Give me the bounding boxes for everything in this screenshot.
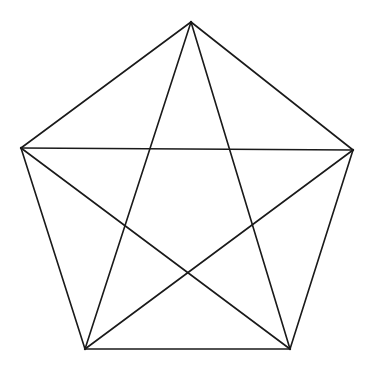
- pentagon-side-right-to-bottom-right: [290, 150, 353, 349]
- vertex-bottom-right: [289, 348, 291, 350]
- pentagon-diagonal-top-to-bottom-left: [85, 22, 191, 349]
- pentagon-diagonal-right-to-left: [21, 148, 353, 150]
- pentagon-side-top-to-right: [191, 22, 353, 150]
- vertex-top: [190, 21, 192, 23]
- pentagon-diagonal-right-to-bottom-left: [85, 150, 353, 349]
- vertex-right: [352, 149, 354, 151]
- pentagon-side-bottom-left-to-left: [21, 148, 85, 349]
- pentagon-diagonal-bottom-right-to-left: [21, 148, 290, 349]
- pentagon-diagonal-top-to-bottom-right: [191, 22, 290, 349]
- pentagon-side-left-to-top: [21, 22, 191, 148]
- pentagon-edges: [20, 21, 354, 350]
- vertex-left: [20, 147, 22, 149]
- pentagon-diagram: [0, 0, 373, 367]
- vertex-bottom-left: [84, 348, 86, 350]
